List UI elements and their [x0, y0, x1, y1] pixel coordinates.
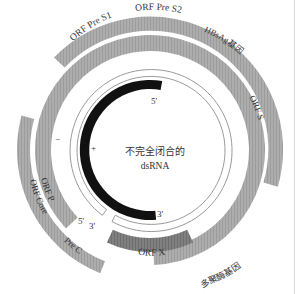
label-plus-sign: +	[91, 143, 96, 153]
label-plus-3prime: 3'	[157, 209, 164, 219]
label-orf-pre-s2: ORF Pre S2	[135, 2, 184, 15]
label-orf-x: ORF X	[138, 247, 166, 258]
right-edge-divider	[294, 0, 295, 294]
label-minus-5prime: 5'	[78, 216, 85, 226]
label-minus-sign: −	[55, 134, 60, 144]
label-polymerase-gene: 多聚酶基因	[198, 260, 242, 289]
center-label-line2: dsRNA	[141, 161, 170, 171]
label-plus-5prime: 5'	[151, 96, 158, 106]
hbv-genome-diagram: ORF Pre S1 ORF Pre S2 HBsAg基因 ORF S ORF …	[0, 0, 297, 294]
center-label-line1: 不完全闭合的	[125, 145, 185, 157]
label-minus-3prime: 3'	[89, 221, 96, 231]
